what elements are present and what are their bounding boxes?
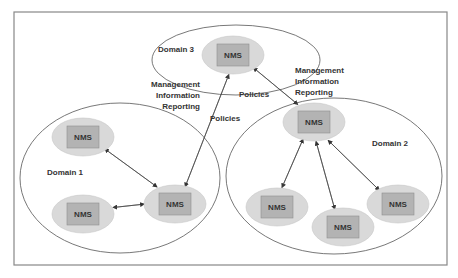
mir-left-line-1: Management	[151, 80, 200, 89]
policies-right-label: Policies	[239, 90, 270, 99]
nms-node-label: NMS	[268, 203, 286, 212]
mir-right-line-1: Management	[295, 66, 344, 75]
nms-node-n2a: NMS	[246, 188, 308, 226]
nms-node-label: NMS	[74, 133, 92, 142]
nms-node-n2: NMS	[283, 103, 345, 141]
domain-3-label: Domain 3	[158, 45, 195, 54]
nms-node-label: NMS	[334, 223, 352, 232]
nms-node-n1: NMS	[144, 185, 206, 223]
mir-left-line-3: Reporting	[162, 102, 200, 111]
nms-node-label: NMS	[224, 51, 242, 60]
mir-right-line-2: Information	[295, 77, 339, 86]
policies-left-label: Policies	[210, 114, 241, 123]
nms-node-n1b: NMS	[52, 195, 114, 233]
mir-right-line-3: Reporting	[295, 88, 333, 97]
nms-node-n1a: NMS	[52, 118, 114, 156]
nms-node-label: NMS	[74, 210, 92, 219]
nms-node-label: NMS	[166, 200, 184, 209]
network-management-diagram: NMSNMSNMSNMSNMSNMSNMSNMS Domain 3 Domain…	[0, 0, 458, 278]
nms-node-n2c: NMS	[367, 185, 429, 223]
mir-left-line-2: Information	[156, 91, 200, 100]
nms-node-label: NMS	[389, 200, 407, 209]
nms-node-label: NMS	[305, 118, 323, 127]
nms-node-n2b: NMS	[312, 208, 374, 246]
domain-1-label: Domain 1	[47, 168, 84, 177]
nms-node-n3: NMS	[202, 36, 264, 74]
domain-2-label: Domain 2	[372, 139, 409, 148]
